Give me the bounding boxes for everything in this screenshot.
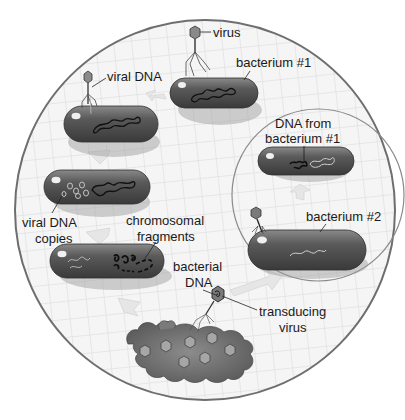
label-bacterium-1: bacterium #1 bbox=[236, 55, 311, 70]
label-viral-dna-copies-1: viral DNA bbox=[22, 215, 77, 230]
label-virus: virus bbox=[213, 25, 241, 40]
label-bacterial-dna-1: bacterial bbox=[173, 259, 222, 274]
label-viral-dna: viral DNA bbox=[107, 69, 162, 84]
transduction-diagram: virus bacterium #1 viral DNA viral DNA c… bbox=[0, 0, 405, 420]
label-chromosomal-2: fragments bbox=[137, 229, 195, 244]
bacterium-stage-4 bbox=[50, 244, 172, 290]
label-dna-from-1-line1: DNA from bbox=[275, 116, 331, 131]
label-bacterium-2: bacterium #2 bbox=[306, 209, 381, 224]
label-chromosomal-1: chromosomal bbox=[126, 213, 204, 228]
bacterium-stage-2 bbox=[64, 106, 160, 157]
label-dna-from-1-line2: bacterium #1 bbox=[265, 131, 340, 146]
bacterium-2 bbox=[248, 230, 368, 279]
label-transducing-1: transducing bbox=[259, 304, 326, 319]
label-transducing-2: virus bbox=[279, 320, 307, 335]
label-bacterial-dna-2: DNA bbox=[185, 275, 213, 290]
